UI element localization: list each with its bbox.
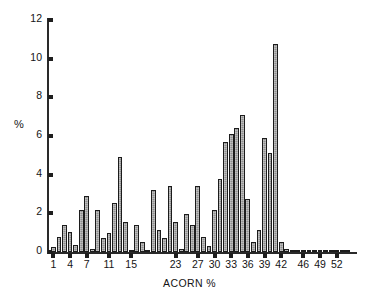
y-tick-mark [48, 211, 53, 215]
y-tick-mark [48, 95, 53, 99]
bar-18 [145, 250, 150, 252]
bar-47 [307, 250, 312, 252]
bar-41 [273, 44, 278, 252]
bar-22 [168, 186, 173, 252]
y-tick-mark [48, 18, 53, 22]
bar-35 [240, 115, 245, 252]
bar-7 [84, 196, 89, 252]
bar-49 [318, 250, 323, 252]
bar-9 [95, 210, 100, 252]
bar-42 [279, 242, 284, 252]
bar-17 [140, 242, 145, 252]
bar-38 [257, 230, 262, 252]
bar-53 [340, 250, 345, 252]
y-axis-label: % [14, 118, 24, 130]
bar-34 [234, 128, 239, 252]
bar-2 [57, 237, 62, 252]
bar-48 [312, 250, 317, 252]
bar-27 [195, 186, 200, 252]
bar-4 [68, 232, 73, 252]
histogram-chart: % 024681012 147111523273033363942464952 … [0, 0, 379, 306]
bar-54 [345, 250, 350, 252]
bar-43 [284, 249, 289, 252]
bar-51 [329, 250, 334, 252]
bar-25 [184, 214, 189, 252]
x-tick-label-7: 7 [75, 259, 99, 270]
bar-8 [90, 249, 95, 252]
y-tick-label: 8 [36, 90, 42, 101]
y-tick-mark [48, 173, 53, 177]
bar-46 [301, 250, 306, 252]
bar-50 [323, 250, 328, 252]
bar-23 [173, 222, 178, 252]
y-tick-mark [48, 134, 53, 138]
y-tick-label: 6 [36, 129, 42, 140]
bar-31 [218, 179, 223, 252]
y-tick-mark [48, 57, 53, 61]
x-tick-label-42: 42 [269, 259, 293, 270]
x-tick-label-15: 15 [119, 259, 143, 270]
x-tick-label-23: 23 [164, 259, 188, 270]
x-axis-title: ACORN % [0, 277, 379, 289]
bar-12 [112, 203, 117, 252]
bar-52 [334, 250, 339, 252]
bar-29 [207, 246, 212, 252]
plot-area: 024681012 147111523273033363942464952 [47, 18, 357, 254]
bar-15 [129, 250, 134, 252]
bar-44 [290, 250, 295, 252]
bar-11 [107, 233, 112, 252]
bar-39 [262, 138, 267, 252]
x-tick-label-11: 11 [97, 259, 121, 270]
bar-13 [118, 157, 123, 252]
x-axis-line [47, 252, 357, 254]
bar-3 [62, 225, 67, 252]
y-tick-label: 4 [36, 168, 42, 179]
bar-26 [190, 225, 195, 252]
bar-40 [268, 153, 273, 252]
bar-37 [251, 242, 256, 252]
y-tick-label: 12 [30, 13, 42, 24]
y-tick-label: 10 [30, 52, 42, 63]
bar-16 [134, 225, 139, 252]
y-tick-label: 0 [36, 245, 42, 256]
y-tick-label: 2 [36, 206, 42, 217]
bar-28 [201, 237, 206, 252]
bar-6 [79, 210, 84, 252]
bar-1 [51, 247, 56, 252]
x-tick-label-52: 52 [325, 259, 349, 270]
bar-30 [212, 210, 217, 252]
bar-10 [101, 238, 106, 253]
bar-21 [162, 238, 167, 253]
bar-32 [223, 142, 228, 252]
bar-19 [151, 190, 156, 252]
bar-45 [295, 250, 300, 252]
bar-14 [123, 222, 128, 252]
bar-36 [245, 199, 250, 252]
bar-33 [229, 134, 234, 252]
bar-20 [157, 230, 162, 252]
bar-5 [73, 245, 78, 252]
bar-24 [179, 249, 184, 252]
